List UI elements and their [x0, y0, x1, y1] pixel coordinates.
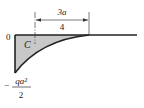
origin-label: 0	[6, 32, 11, 42]
dimension-arrow-left	[36, 18, 41, 21]
point-c-label: C	[24, 39, 31, 50]
moment-denominator: 2	[19, 90, 24, 100]
moment-numerator: qa²	[15, 76, 27, 86]
moment-sign: −	[4, 80, 9, 90]
dimension-denominator: 4	[60, 22, 65, 32]
dimension-numerator: 3a	[57, 7, 68, 17]
dimension-arrow-right	[83, 18, 88, 21]
moment-diagram: 3a 4 0 C − qa² 2	[0, 0, 144, 108]
